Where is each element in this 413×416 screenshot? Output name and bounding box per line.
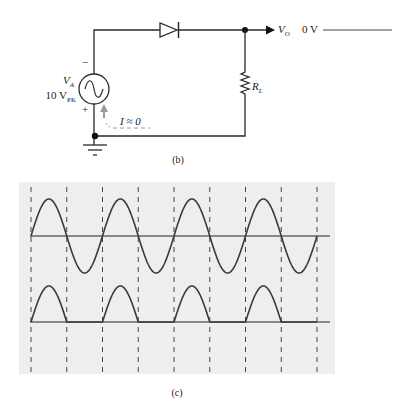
source-plus-sign: + [82,103,88,115]
source-amplitude: 10 VPK [46,89,76,104]
wire-top-left [94,30,160,74]
source-minus-sign: − [82,56,88,68]
waveform-panel [19,182,335,374]
caption-b: (b) [172,154,184,166]
diode-icon [160,22,179,38]
output-value: 0 V [302,23,318,35]
source-name: VA [63,74,75,89]
output-label: VO [278,23,290,38]
ac-source-icon [79,74,109,104]
diagram-canvas: − VA 10 VPK + I ≈ 0 RL VO 0 V (b) (c) [0,0,413,416]
caption-c: (c) [171,387,182,399]
resistor-icon [95,30,249,136]
ground-icon [83,145,107,155]
output-arrow-icon [266,26,275,35]
load-label: RL [251,80,263,95]
circuit: − VA 10 VPK + I ≈ 0 RL VO 0 V (b) [46,22,392,166]
node-dot-bottom [92,133,98,139]
current-label: I ≈ 0 [119,115,141,127]
